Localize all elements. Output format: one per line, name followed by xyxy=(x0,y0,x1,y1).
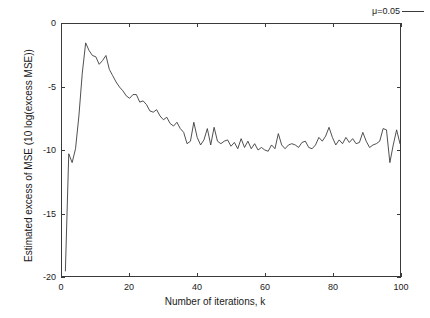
legend: μ=0.05 xyxy=(372,6,424,16)
x-tick-label-100: 100 xyxy=(393,282,408,292)
x-tick-label-0: 0 xyxy=(58,282,63,292)
y-tick-right--5 xyxy=(397,87,401,88)
x-tick-40 xyxy=(197,273,198,277)
x-tick-label-80: 80 xyxy=(328,282,338,292)
legend-label: μ=0.05 xyxy=(372,6,400,16)
y-tick-0 xyxy=(61,23,65,24)
data-curve-svg xyxy=(62,24,400,276)
x-tick-label-40: 40 xyxy=(192,282,202,292)
y-tick-label--20: -20 xyxy=(29,272,56,282)
y-tick-label-0: 0 xyxy=(29,18,56,28)
x-tick-top-20 xyxy=(129,23,130,27)
x-axis-title: Number of iterations, k xyxy=(0,296,430,307)
x-tick-top-40 xyxy=(197,23,198,27)
y-tick-right--15 xyxy=(397,214,401,215)
x-tick-top-60 xyxy=(265,23,266,27)
y-tick--15 xyxy=(61,214,65,215)
y-tick--20 xyxy=(61,277,65,278)
series-line-mu-0-05 xyxy=(65,43,400,271)
x-tick-top-80 xyxy=(333,23,334,27)
x-tick-80 xyxy=(333,273,334,277)
y-tick--10 xyxy=(61,150,65,151)
x-tick-60 xyxy=(265,273,266,277)
x-tick-100 xyxy=(401,273,402,277)
x-tick-top-100 xyxy=(401,23,402,27)
legend-line-swatch xyxy=(402,11,424,12)
x-tick-label-20: 20 xyxy=(124,282,134,292)
y-tick-right--20 xyxy=(397,277,401,278)
y-axis-title: Estimated excess of MSE (10 log(excess M… xyxy=(23,46,34,266)
y-tick-right-0 xyxy=(397,23,401,24)
y-tick--5 xyxy=(61,87,65,88)
x-tick-label-60: 60 xyxy=(260,282,270,292)
plot-area xyxy=(61,23,401,277)
x-tick-20 xyxy=(129,273,130,277)
figure-canvas: μ=0.05 0204060801000-5-10-15-20 Number o… xyxy=(0,0,430,318)
y-tick-right--10 xyxy=(397,150,401,151)
